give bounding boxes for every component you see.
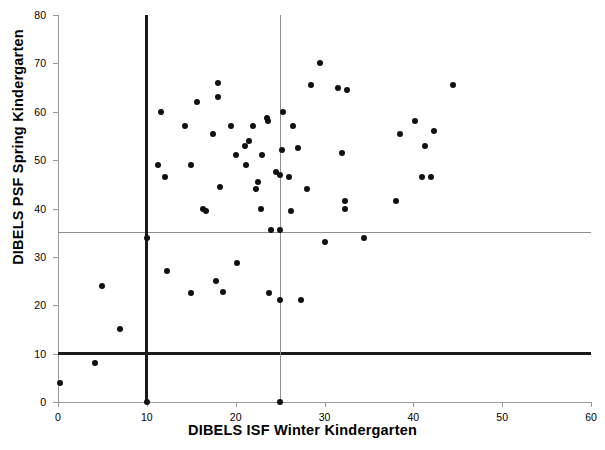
data-point [342,206,348,212]
data-point [322,239,328,245]
x-tick-layer: 0102030405060 [58,15,591,402]
x-tick-0: 0 [58,402,59,407]
x-tick-20: 20 [236,402,237,407]
data-point [144,235,150,241]
y-tick-label-20: 20 [34,299,46,311]
y-tick-label-50: 50 [34,154,46,166]
y-tick-label-70: 70 [34,57,46,69]
data-point [217,184,223,190]
data-point [344,87,350,93]
data-point [288,208,294,214]
data-point [277,172,283,178]
data-point [298,297,304,303]
data-point [277,399,283,405]
scatter-plot-figure: 01020304050607080 0102030405060 DIBELS I… [0,0,605,450]
data-point [220,289,226,295]
data-point [162,174,168,180]
y-tick-label-60: 60 [34,106,46,118]
y-tick-label-0: 0 [40,396,46,408]
data-point [158,109,164,115]
data-point [194,99,200,105]
data-point [295,145,301,151]
x-axis-title: DIBELS ISF Winter Kindergarten [0,422,605,438]
data-point [393,198,399,204]
plot-area: 01020304050607080 0102030405060 [58,15,591,402]
reference-line-isf-benchmark-10 [145,15,148,402]
data-point [255,179,261,185]
y-axis-title: DIBELS PSF Spring Kindergarten [10,0,26,307]
x-tick-60: 60 [591,402,592,407]
data-point [397,131,403,137]
x-tick-30: 30 [325,402,326,407]
y-tick-label-80: 80 [34,9,46,21]
data-point [280,109,286,115]
data-point [422,143,428,149]
y-tick-label-10: 10 [34,348,46,360]
data-point [246,138,252,144]
data-point [286,174,292,180]
data-point [431,128,437,134]
x-tick-50: 50 [502,402,503,407]
y-tick-label-40: 40 [34,203,46,215]
data-point [144,399,150,405]
data-point [304,186,310,192]
data-point [335,85,341,91]
reference-line-isf-benchmark-25 [280,15,281,402]
y-tick-label-30: 30 [34,251,46,263]
reference-line-psf-benchmark-35 [58,232,591,233]
x-tick-40: 40 [413,402,414,407]
data-point [57,380,63,386]
data-point [233,152,239,158]
reference-line-psf-benchmark-10 [58,352,591,355]
data-point [215,80,221,86]
